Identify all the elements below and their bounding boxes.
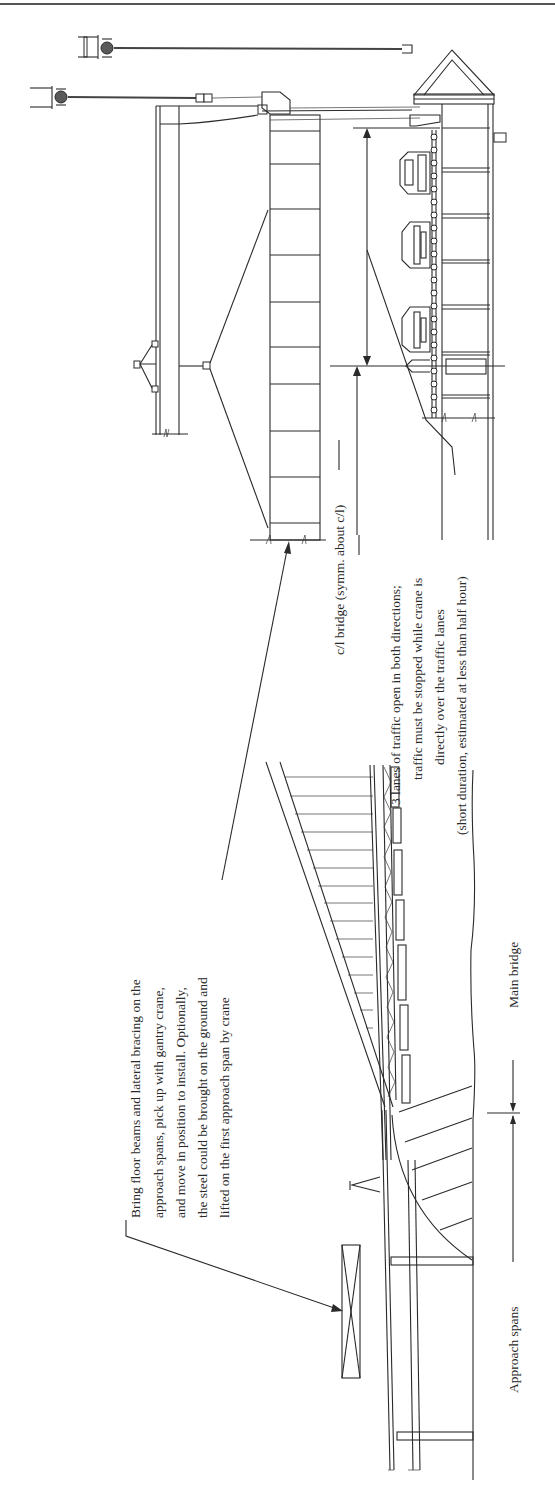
main-span-truss [370, 765, 410, 1160]
traffic-note-line-1: 3 lanes of traffic open in both directio… [388, 585, 403, 805]
label-centerline: c/l bridge (symm. about c/l) [332, 440, 347, 655]
approach-spans [342, 1086, 473, 1470]
leader-to-floor-beam [222, 545, 288, 880]
traffic-note-line-2: traffic must be stopped while crane is [410, 578, 425, 780]
vehicle-2 [402, 222, 430, 268]
centerline-label: c/l bridge (symm. about c/l) [332, 505, 347, 655]
gantry-frame [134, 92, 290, 528]
label-floor-beam-note: Bring floor beams and lateral bracing on… [128, 977, 232, 1218]
label-traffic-note: 3 lanes of traffic open in both directio… [388, 576, 469, 835]
traffic-note-line-3: directly over the traffic lanes [432, 609, 447, 765]
main-bridge-label: Main bridge [506, 942, 521, 1008]
gantry-trolley-upper [78, 35, 412, 59]
floor-beam-note-line-4: the steel could be brought on the ground… [195, 977, 210, 1218]
label-main-bridge: Main bridge [506, 942, 521, 1008]
bridge-erection-diagram: Bring floor beams and lateral bracing on… [0, 0, 555, 1510]
cross-section [30, 35, 506, 555]
floor-beam-note-line-3: and move in position to install. Optiona… [173, 987, 188, 1218]
ground-profile [471, 770, 475, 1480]
vehicle-1 [400, 152, 430, 194]
span-dimension [487, 1060, 520, 1262]
lane-dimension [330, 128, 505, 555]
floor-beam-note-line-1: Bring floor beams and lateral bracing on… [128, 979, 143, 1218]
approach-spans-label: Approach spans [506, 1306, 521, 1393]
stay-cables [285, 777, 373, 1028]
leader-to-approach-load [126, 1220, 340, 1310]
floor-beam-note-line-5: lifted on the first approach span by cra… [217, 997, 232, 1218]
deck-cross-section [410, 50, 506, 540]
vehicle-3 [402, 307, 430, 352]
traffic-note-line-4: (short duration, estimated at less than … [454, 576, 469, 835]
label-approach-spans: Approach spans [506, 1306, 521, 1393]
floor-beam-lifted [250, 107, 420, 544]
floor-beam-note-line-2: approach spans, pick up with gantry cran… [151, 987, 166, 1218]
